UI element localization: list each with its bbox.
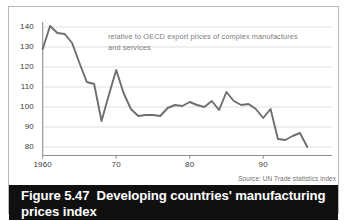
y-axis-tick-label: 130 <box>12 42 34 51</box>
y-axis-tick-label: 110 <box>12 82 34 91</box>
y-axis-tick-label: 90 <box>12 122 34 131</box>
x-axis-tick-label: 70 <box>101 160 131 169</box>
source-note: Source: UN Trade statistics index <box>238 175 336 182</box>
figure-caption: Figure 5.47Developing countries' manufac… <box>21 188 329 219</box>
figure-container: 8090100110120130140 1960708090 relative … <box>0 0 348 221</box>
chart-annotation: relative to OECD export prices of comple… <box>108 32 308 53</box>
caption-bar: Figure 5.47Developing countries' manufac… <box>9 185 338 220</box>
y-axis-tick-label: 100 <box>12 102 34 111</box>
y-axis-tick-label: 80 <box>12 142 34 151</box>
x-axis-tick-label: 80 <box>175 160 205 169</box>
y-axis-tick-label: 140 <box>12 22 34 31</box>
x-axis-tick-label: 90 <box>248 160 278 169</box>
figure-number: Figure 5.47 <box>21 188 90 203</box>
y-axis-tick-label: 120 <box>12 62 34 71</box>
x-axis-tick-label: 1960 <box>28 160 58 169</box>
